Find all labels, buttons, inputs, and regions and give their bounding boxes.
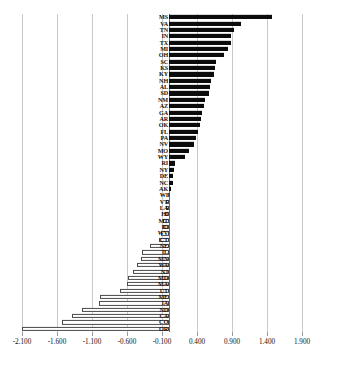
bar bbox=[169, 136, 196, 140]
bar bbox=[169, 85, 210, 89]
x-tick-label: -1.100 bbox=[83, 338, 102, 346]
bar bbox=[169, 155, 185, 159]
plot-area: MSVATNINTXMIOHSCKSKYNHALSDNMAZGAAROKFLPA… bbox=[0, 14, 346, 332]
bar bbox=[169, 174, 173, 178]
bar bbox=[169, 72, 214, 76]
bar bbox=[169, 53, 224, 57]
bar bbox=[62, 320, 169, 324]
x-tick bbox=[267, 332, 268, 336]
bar bbox=[169, 180, 173, 184]
x-axis: -2.100-1.600-1.100-0.600-0.1000.4000.900… bbox=[0, 332, 346, 362]
x-tick bbox=[127, 332, 128, 336]
bar bbox=[169, 161, 175, 165]
x-tick-label: 1.400 bbox=[259, 338, 275, 346]
bar bbox=[169, 98, 205, 102]
bar bbox=[169, 110, 202, 114]
category-label: OR bbox=[159, 326, 168, 332]
bar bbox=[72, 314, 169, 318]
bar-row: OR bbox=[0, 326, 346, 332]
x-tick-label: 0.400 bbox=[189, 338, 205, 346]
bar-rows: MSVATNINTXMIOHSCKSKYNHALSDNMAZGAAROKFLPA… bbox=[0, 14, 346, 332]
x-tick bbox=[162, 332, 163, 336]
x-tick-label: -2.100 bbox=[13, 338, 32, 346]
bar bbox=[169, 34, 231, 38]
bar bbox=[22, 327, 169, 331]
x-tick bbox=[22, 332, 23, 336]
bar-chart: MSVATNINTXMIOHSCKSKYNHALSDNMAZGAAROKFLPA… bbox=[0, 0, 346, 371]
x-tick-label: -1.600 bbox=[48, 338, 67, 346]
bar bbox=[82, 308, 170, 312]
bar bbox=[169, 28, 234, 32]
bar bbox=[169, 130, 198, 134]
bar bbox=[169, 104, 204, 108]
bar bbox=[169, 60, 216, 64]
bar bbox=[169, 91, 209, 95]
bar bbox=[169, 149, 189, 153]
x-tick bbox=[232, 332, 233, 336]
bar bbox=[169, 117, 201, 121]
bar bbox=[169, 168, 174, 172]
bar bbox=[169, 41, 231, 45]
x-tick bbox=[302, 332, 303, 336]
bar bbox=[169, 123, 200, 127]
x-tick-label: 1.900 bbox=[294, 338, 310, 346]
x-tick bbox=[197, 332, 198, 336]
bar bbox=[169, 21, 241, 25]
x-tick-label: -0.100 bbox=[153, 338, 172, 346]
x-tick bbox=[92, 332, 93, 336]
x-tick-label: 0.900 bbox=[224, 338, 240, 346]
x-tick-label: -0.600 bbox=[118, 338, 137, 346]
bar bbox=[169, 142, 194, 146]
bar bbox=[169, 47, 228, 51]
bar bbox=[169, 79, 211, 83]
bar bbox=[169, 15, 272, 19]
bar bbox=[169, 66, 215, 70]
x-tick bbox=[57, 332, 58, 336]
bar bbox=[169, 187, 171, 191]
